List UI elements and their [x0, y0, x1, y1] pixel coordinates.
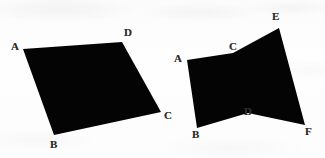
geometry-figures-canvas — [0, 0, 325, 158]
right-vertex-label-a: A — [174, 53, 182, 64]
figure-page: A B C D A C E F D B — [0, 0, 325, 158]
right-vertex-label-b: B — [192, 129, 199, 140]
left-vertex-label-c: C — [164, 110, 172, 121]
right-vertex-label-c: C — [229, 41, 237, 52]
right-vertex-label-f: F — [305, 126, 312, 137]
left-figure-shape — [23, 42, 161, 135]
right-vertex-label-e: E — [272, 11, 279, 22]
left-vertex-label-b: B — [50, 139, 57, 150]
left-vertex-label-a: A — [11, 41, 19, 52]
right-vertex-label-d: D — [244, 106, 252, 117]
left-vertex-label-d: D — [124, 27, 132, 38]
